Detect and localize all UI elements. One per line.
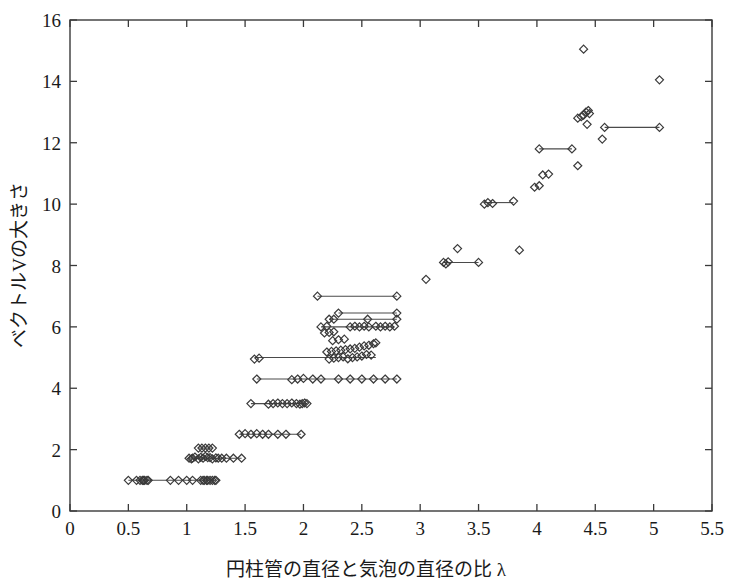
y-tick-label: 6 bbox=[52, 317, 62, 338]
x-tick-label: 0.5 bbox=[116, 518, 140, 539]
x-tick-label: 3.5 bbox=[467, 518, 491, 539]
x-tick-label: 4.5 bbox=[583, 518, 607, 539]
y-tick-label: 0 bbox=[52, 501, 62, 522]
y-tick-label: 10 bbox=[42, 194, 61, 215]
x-tick-label: 3 bbox=[415, 518, 425, 539]
x-tick-label: 5 bbox=[649, 518, 659, 539]
x-tick-label: 1 bbox=[182, 518, 192, 539]
chart-figure: 00.511.522.533.544.555.5 0246810121416 円… bbox=[0, 0, 733, 585]
x-tick-label: 0 bbox=[65, 518, 75, 539]
y-tick-label: 8 bbox=[52, 256, 62, 277]
x-tick-label: 1.5 bbox=[233, 518, 257, 539]
x-axis-title: 円柱管の直径と気泡の直径の比 λ bbox=[226, 559, 507, 580]
y-axis-title: ベクトルVの大きさ bbox=[9, 182, 30, 348]
chart-background bbox=[0, 0, 733, 585]
y-tick-label: 4 bbox=[52, 378, 62, 399]
y-tick-label: 14 bbox=[42, 71, 62, 92]
y-tick-label: 2 bbox=[52, 440, 62, 461]
x-tick-label: 2.5 bbox=[350, 518, 374, 539]
y-tick-label: 12 bbox=[42, 133, 61, 154]
y-tick-label: 16 bbox=[42, 10, 61, 31]
x-tick-label: 5.5 bbox=[700, 518, 724, 539]
scatter-plot-svg: 00.511.522.533.544.555.5 0246810121416 円… bbox=[0, 0, 733, 585]
x-tick-label: 4 bbox=[532, 518, 542, 539]
x-tick-label: 2 bbox=[299, 518, 309, 539]
